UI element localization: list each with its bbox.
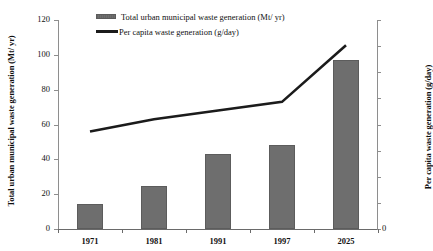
x-axis-tick-label: 1991 xyxy=(188,236,248,246)
x-axis-line xyxy=(58,229,378,230)
legend-bar-swatch-icon xyxy=(96,14,116,19)
y-axis-left-tick-label: 40 xyxy=(10,154,50,163)
x-axis-tick xyxy=(122,229,123,233)
x-axis-tick-label: 1981 xyxy=(124,236,184,246)
x-axis-tick-label: 1997 xyxy=(252,236,312,246)
x-axis-tick xyxy=(250,229,251,233)
x-axis-tick-label: 1971 xyxy=(60,236,120,246)
y-axis-left-tick-label: 120 xyxy=(10,15,50,24)
x-axis-tick xyxy=(378,229,379,233)
plot-area: 020406080100120 0 19711981199119972025 xyxy=(58,20,378,229)
x-axis-tick xyxy=(58,229,59,233)
y-axis-right-tick-label: 0 xyxy=(382,224,412,233)
y-axis-left-tick-label: 80 xyxy=(10,85,50,94)
y-axis-left-tick-label: 0 xyxy=(10,224,50,233)
line-series xyxy=(58,20,378,229)
x-axis-tick xyxy=(314,229,315,233)
x-axis-tick-label: 2025 xyxy=(316,236,376,246)
y-axis-left-tick-label: 100 xyxy=(10,50,50,59)
y-axis-left-tick-label: 20 xyxy=(10,189,50,198)
per-capita-line-path xyxy=(90,45,346,131)
x-axis-tick xyxy=(186,229,187,233)
y-axis-right-title: Per capita waste generation (g/day) xyxy=(423,25,433,230)
y-axis-left-tick-label: 60 xyxy=(10,120,50,129)
